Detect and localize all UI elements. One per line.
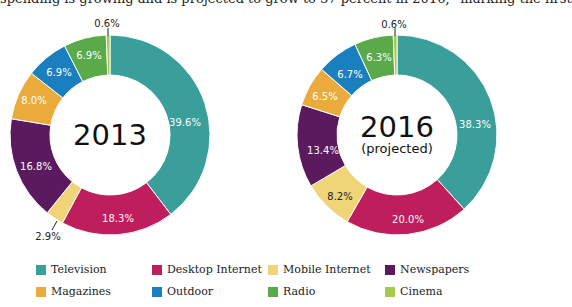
swatch-icon [385, 265, 395, 275]
slice-label-newspapers: 16.8% [20, 161, 52, 172]
slice-label-television: 39.6% [169, 117, 201, 128]
swatch-icon [36, 265, 46, 275]
swatch-icon [152, 265, 162, 275]
legend-item-magazines: Magazines [36, 285, 111, 298]
chart-center-2013: 2013 [73, 120, 147, 150]
legend-item-television: Television [36, 263, 107, 276]
swatch-icon [385, 287, 395, 297]
donut-chart-2013: 2013 39.6% 18.3% 2.9% 16.8% 8.0% 6.9% 6.… [0, 0, 254, 250]
legend-item-radio: Radio [268, 285, 315, 298]
slice-label-newspapers: 13.4% [307, 145, 339, 156]
chart-year: 2013 [73, 120, 147, 150]
slice-label-magazines: 8.0% [21, 95, 46, 106]
slice-label-cinema: 0.6% [381, 19, 406, 30]
slice-label-cinema: 0.6% [94, 18, 119, 29]
chart-legend: Television Desktop Internet Mobile Inter… [0, 258, 507, 303]
legend-item-outdoor: Outdoor [152, 285, 213, 298]
swatch-icon [268, 287, 278, 297]
slice-label-desktop-internet: 18.3% [102, 213, 134, 224]
legend-item-newspapers: Newspapers [385, 263, 469, 276]
swatch-icon [152, 287, 162, 297]
slice-label-mobile-internet: 8.2% [327, 191, 352, 202]
donut-chart-2016: 2016 (projected) 38.3% 20.0% 8.2% 13.4% … [253, 0, 507, 250]
swatch-icon [36, 287, 46, 297]
slice-label-television: 38.3% [459, 119, 491, 130]
slice-label-mobile-internet: 2.9% [35, 231, 60, 242]
swatch-icon [268, 265, 278, 275]
leader-line [52, 221, 57, 230]
slice-label-magazines: 6.5% [312, 91, 337, 102]
chart-center-2016: 2016 (projected) [360, 112, 434, 156]
legend-item-cinema: Cinema [385, 285, 443, 298]
slice-label-radio: 6.9% [76, 50, 101, 61]
slice-label-radio: 6.3% [366, 52, 391, 63]
legend-item-desktop-internet: Desktop Internet [152, 263, 262, 276]
slice-label-outdoor: 6.9% [46, 67, 71, 78]
chart-subtitle: (projected) [360, 142, 434, 156]
slice-label-desktop-internet: 20.0% [392, 214, 424, 225]
chart-year: 2016 [360, 112, 434, 142]
slice-label-outdoor: 6.7% [337, 69, 362, 80]
legend-item-mobile-internet: Mobile Internet [268, 263, 371, 276]
